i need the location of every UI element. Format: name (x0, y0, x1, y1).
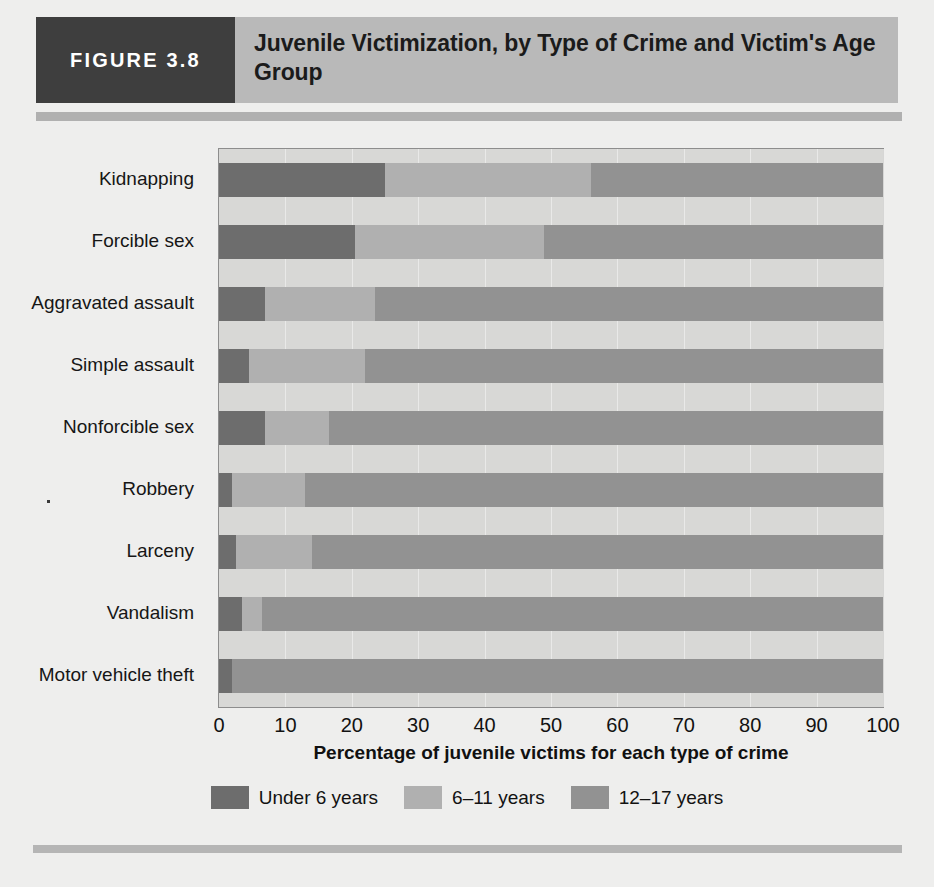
x-axis-tick-label: 40 (473, 714, 495, 737)
bar-row (219, 349, 883, 383)
legend-swatch (571, 786, 609, 809)
stacked-bar[interactable] (219, 473, 883, 507)
x-axis-tick-label: 80 (739, 714, 761, 737)
stacked-bar[interactable] (219, 535, 883, 569)
bar-segment[interactable] (591, 163, 883, 197)
legend-label: 12–17 years (619, 787, 724, 809)
stacked-bar[interactable] (219, 659, 883, 693)
legend-label: Under 6 years (259, 787, 378, 809)
y-axis-label: Forcible sex (92, 230, 194, 252)
y-axis-label: Simple assault (70, 354, 194, 376)
bar-segment[interactable] (385, 163, 591, 197)
bar-row (219, 163, 883, 197)
bar-segment[interactable] (219, 473, 232, 507)
bar-segment[interactable] (219, 349, 249, 383)
stacked-bar[interactable] (219, 163, 883, 197)
bar-segment[interactable] (219, 411, 265, 445)
bar-segment[interactable] (219, 535, 236, 569)
bar-segment[interactable] (232, 659, 883, 693)
divider-bottom (33, 845, 902, 853)
bars-container (219, 149, 883, 707)
bar-segment[interactable] (232, 473, 305, 507)
figure-header: FIGURE 3.8 Juvenile Victimization, by Ty… (36, 17, 898, 103)
bar-row (219, 597, 883, 631)
y-axis-label: Vandalism (107, 602, 194, 624)
bar-segment[interactable] (262, 597, 883, 631)
stacked-bar[interactable] (219, 411, 883, 445)
bar-segment[interactable] (305, 473, 883, 507)
bar-segment[interactable] (219, 225, 355, 259)
bar-row (219, 411, 883, 445)
stacked-bar[interactable] (219, 225, 883, 259)
x-axis-tick-label: 0 (213, 714, 224, 737)
bar-segment[interactable] (265, 287, 375, 321)
x-axis-tick-label: 70 (673, 714, 695, 737)
bar-segment[interactable] (219, 597, 242, 631)
bar-row (219, 225, 883, 259)
stacked-bar[interactable] (219, 349, 883, 383)
bar-segment[interactable] (249, 349, 365, 383)
bar-segment[interactable] (375, 287, 883, 321)
bar-row (219, 473, 883, 507)
figure-page: FIGURE 3.8 Juvenile Victimization, by Ty… (0, 0, 934, 887)
y-axis-label: Robbery (122, 478, 194, 500)
x-axis-tick-label: 100 (866, 714, 899, 737)
y-axis-label: Kidnapping (99, 168, 194, 190)
bar-row (219, 659, 883, 693)
bar-segment[interactable] (219, 287, 265, 321)
bar-segment[interactable] (329, 411, 883, 445)
bar-segment[interactable] (265, 411, 328, 445)
bar-segment[interactable] (236, 535, 312, 569)
x-axis-tick-label: 10 (274, 714, 296, 737)
x-axis-tick-label: 60 (606, 714, 628, 737)
stray-mark (47, 500, 50, 503)
divider-top (36, 112, 902, 121)
y-axis-label: Nonforcible sex (63, 416, 194, 438)
y-axis-label: Larceny (126, 540, 194, 562)
figure-title: Juvenile Victimization, by Type of Crime… (254, 29, 884, 87)
bar-segment[interactable] (242, 597, 262, 631)
x-axis-tick-label: 20 (341, 714, 363, 737)
stacked-bar[interactable] (219, 597, 883, 631)
chart: KidnappingForcible sexAggravated assault… (0, 128, 934, 728)
bar-row (219, 287, 883, 321)
bar-segment[interactable] (312, 535, 883, 569)
gridline (883, 149, 884, 707)
x-axis-tick-label: 90 (805, 714, 827, 737)
bar-segment[interactable] (365, 349, 883, 383)
x-axis-tick-label: 50 (540, 714, 562, 737)
bar-segment[interactable] (355, 225, 544, 259)
bar-segment[interactable] (544, 225, 883, 259)
legend-swatch (211, 786, 249, 809)
figure-number-badge: FIGURE 3.8 (36, 17, 235, 103)
y-axis-labels: KidnappingForcible sexAggravated assault… (0, 148, 206, 708)
x-axis-tick-label: 30 (407, 714, 429, 737)
x-axis-title: Percentage of juvenile victims for each … (218, 742, 884, 764)
y-axis-label: Aggravated assault (31, 292, 194, 314)
legend: Under 6 years6–11 years12–17 years (0, 786, 934, 809)
bar-segment[interactable] (219, 659, 232, 693)
bar-segment[interactable] (219, 163, 385, 197)
y-axis-label: Motor vehicle theft (39, 664, 194, 686)
figure-number-label: FIGURE 3.8 (70, 49, 201, 72)
x-axis-ticks: 0102030405060708090100 (218, 714, 884, 742)
legend-item[interactable]: Under 6 years (211, 786, 378, 809)
legend-label: 6–11 years (452, 787, 545, 809)
legend-item[interactable]: 6–11 years (404, 786, 545, 809)
plot-area (218, 148, 884, 708)
stacked-bar[interactable] (219, 287, 883, 321)
legend-item[interactable]: 12–17 years (571, 786, 724, 809)
legend-swatch (404, 786, 442, 809)
bar-row (219, 535, 883, 569)
